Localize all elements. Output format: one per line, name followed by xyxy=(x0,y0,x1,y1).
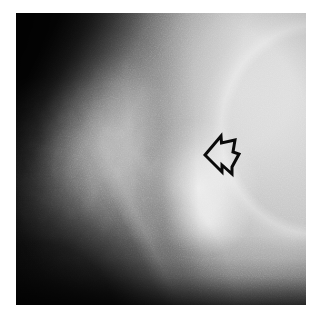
film-grain-layer xyxy=(16,13,306,305)
joint-space-layer xyxy=(16,13,306,305)
outline-arrow-icon xyxy=(202,127,244,181)
xray-base-field-layer xyxy=(16,13,306,305)
femoral-shaft-cortex-layer xyxy=(16,13,306,305)
articular-head-layer xyxy=(16,13,306,305)
acetabular-roof-layer xyxy=(16,13,306,305)
trabecular-texture-layer xyxy=(16,13,306,305)
radiograph-page xyxy=(0,0,322,320)
bottom-dark-strip-layer xyxy=(16,13,306,305)
soft-tissue-shadow-layer xyxy=(16,13,306,305)
trochanteric-bone-mass-layer xyxy=(16,13,306,305)
film-vignette-layer xyxy=(16,13,306,305)
lower-left-dark-field-layer xyxy=(16,13,306,305)
radiograph-plate xyxy=(16,13,306,305)
